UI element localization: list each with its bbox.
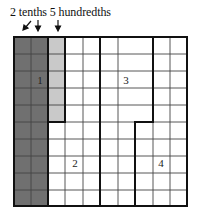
region-label-3: 3: [123, 74, 129, 86]
hundred-grid: [0, 0, 198, 218]
region-label-2: 2: [72, 157, 78, 169]
region-label-1: 1: [37, 74, 43, 86]
hundredths-shaded-region: [48, 37, 65, 122]
region-label-4: 4: [158, 157, 164, 169]
